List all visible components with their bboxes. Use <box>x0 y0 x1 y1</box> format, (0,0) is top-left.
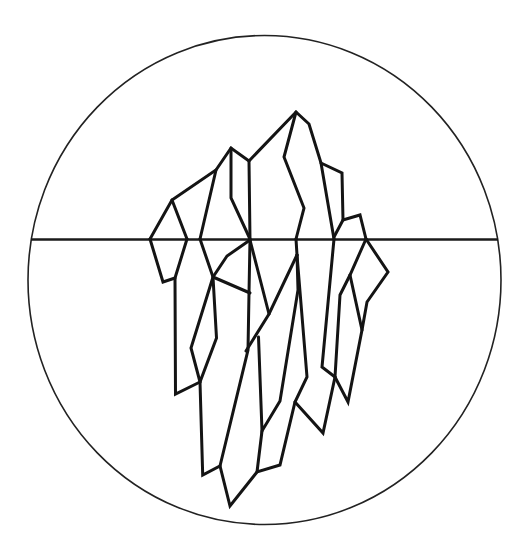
iceberg-illustration: Iceberg line illustration <box>0 0 528 556</box>
iceberg-icon <box>0 0 528 556</box>
iceberg-shape <box>150 112 388 506</box>
circle-frame-icon <box>28 36 501 525</box>
